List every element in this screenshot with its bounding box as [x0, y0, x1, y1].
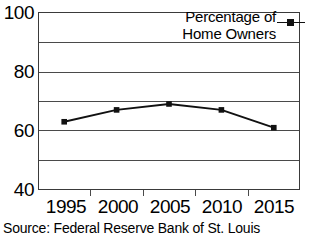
y-tick-label-100: 100	[0, 3, 34, 22]
legend-label-line2: Home Owners	[160, 25, 276, 42]
y-tick-label-60: 60	[0, 121, 34, 140]
gridline-70	[39, 101, 299, 102]
legend-label-line1: Percentage of	[160, 8, 276, 25]
y-tick-label-80: 80	[0, 62, 34, 81]
gridline-60	[39, 130, 299, 131]
x-tick-label-2015: 2015	[254, 196, 294, 218]
home-ownership-line-chart: 100 80 60 40 1995 2000 2005 2010 2015 Pe…	[0, 0, 309, 242]
legend-key-marker	[277, 18, 305, 28]
legend-key-square-icon	[287, 19, 294, 26]
x-tick-label-2010: 2010	[202, 196, 242, 218]
y-axis-labels: 100 80 60 40	[0, 0, 34, 242]
y-tick-label-40: 40	[0, 180, 34, 199]
x-axis-labels: 1995 2000 2005 2010 2015	[38, 196, 300, 220]
gridline-50	[39, 160, 299, 161]
source-caption: Source: Federal Reserve Bank of St. Loui…	[3, 219, 260, 237]
x-tick-label-2000: 2000	[98, 196, 138, 218]
gridline-80	[39, 72, 299, 73]
x-tick-label-1995: 1995	[46, 196, 86, 218]
legend: Percentage of Home Owners	[160, 8, 305, 48]
x-tick-label-2005: 2005	[150, 196, 190, 218]
